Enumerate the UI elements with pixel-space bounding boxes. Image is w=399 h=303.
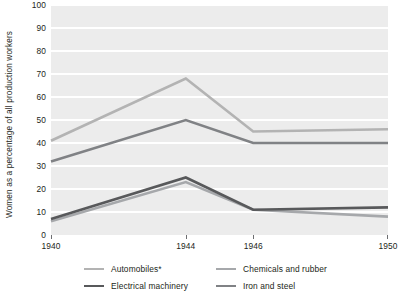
x-axis-tick-label: 1950 <box>378 241 397 251</box>
legend-label: Automobiles* <box>111 264 162 274</box>
y-axis-tick-label: 30 <box>36 161 46 171</box>
legend-item[interactable]: Chemicals and rubber <box>216 262 327 276</box>
y-axis-tick-label: 100 <box>32 0 46 10</box>
legend: Automobiles*Chemicals and rubberElectric… <box>84 262 384 296</box>
y-axis-tick-label: 10 <box>36 207 46 217</box>
legend-item[interactable]: Automobiles* <box>84 262 162 276</box>
x-axis-tick-label: 1946 <box>244 241 263 251</box>
legend-label: Chemicals and rubber <box>243 264 327 274</box>
legend-swatch <box>84 285 104 288</box>
legend-swatch <box>84 268 104 271</box>
series-line <box>51 182 388 221</box>
y-axis-tick-label: 20 <box>36 184 46 194</box>
y-axis-tick-labels: 0102030405060708090100 <box>18 0 50 240</box>
x-axis: 1940194419461950 <box>51 235 388 257</box>
series-line <box>51 120 388 161</box>
y-axis-tick-label: 80 <box>36 46 46 56</box>
y-axis-tick-label: 60 <box>36 92 46 102</box>
x-axis-tick-mark <box>253 235 254 239</box>
y-axis-tick-label: 0 <box>41 230 46 240</box>
y-axis-tick-label: 40 <box>36 138 46 148</box>
legend-item[interactable]: Electrical machinery <box>84 279 188 293</box>
plot-area <box>51 5 388 235</box>
x-axis-tick-mark <box>186 235 187 239</box>
series-line <box>51 178 388 219</box>
legend-swatch <box>216 285 236 288</box>
legend-label: Electrical machinery <box>111 281 188 291</box>
y-axis-tick-label: 70 <box>36 69 46 79</box>
x-axis-tick-mark <box>387 235 388 239</box>
series-lines <box>51 5 388 235</box>
y-axis-tick-label: 90 <box>36 23 46 33</box>
y-axis-tick-label: 50 <box>36 115 46 125</box>
legend-swatch <box>216 268 236 271</box>
y-axis-title: Women as a percentage of all production … <box>0 0 20 248</box>
line-chart: Women as a percentage of all production … <box>0 0 399 303</box>
x-axis-tick-mark <box>51 235 52 239</box>
legend-label: Iron and steel <box>243 281 295 291</box>
legend-item[interactable]: Iron and steel <box>216 279 295 293</box>
x-axis-tick-label: 1940 <box>41 241 60 251</box>
y-axis-title-text: Women as a percentage of all production … <box>6 30 15 217</box>
x-axis-tick-label: 1944 <box>176 241 195 251</box>
